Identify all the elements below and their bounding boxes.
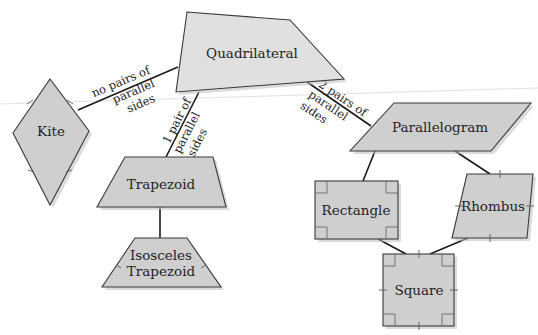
node-rhombus: Rhombus bbox=[452, 170, 536, 242]
node-rectangle: Rectangle bbox=[315, 181, 401, 242]
background-rule-line bbox=[0, 88, 538, 104]
rectangle-label: Rectangle bbox=[322, 202, 391, 218]
edge-label-two-pairs: 2 pairs of parallel sides bbox=[298, 75, 370, 143]
isosceles-trapezoid-label-line2: Trapezoid bbox=[127, 263, 196, 279]
node-quadrilateral: Quadrilateral bbox=[176, 12, 347, 95]
node-isosceles-trapezoid: Isosceles Trapezoid bbox=[102, 238, 224, 290]
parallelogram-label: Parallelogram bbox=[392, 119, 488, 135]
edge-parallelogram-to-rhombus bbox=[455, 151, 490, 174]
edge-label-one-pair: 1 pair of parallel sides bbox=[158, 95, 220, 162]
kite-shape bbox=[13, 79, 89, 205]
quadrilateral-label: Quadrilateral bbox=[206, 45, 298, 61]
node-kite: Kite bbox=[13, 79, 92, 208]
square-label: Square bbox=[394, 282, 443, 298]
node-parallelogram: Parallelogram bbox=[350, 103, 534, 154]
node-square: Square bbox=[379, 250, 458, 330]
edge-label-no-pairs: no pairs of parallel sides bbox=[89, 63, 163, 126]
isosceles-trapezoid-label-line1: Isosceles bbox=[130, 247, 192, 263]
rhombus-label: Rhombus bbox=[461, 198, 525, 214]
node-trapezoid: Trapezoid bbox=[97, 157, 229, 210]
quadrilateral-hierarchy-diagram: no pairs of parallel sides 1 pair of par… bbox=[0, 0, 538, 335]
kite-label: Kite bbox=[37, 123, 65, 139]
edge-parallelogram-to-rectangle bbox=[363, 151, 375, 181]
trapezoid-label: Trapezoid bbox=[127, 176, 196, 192]
